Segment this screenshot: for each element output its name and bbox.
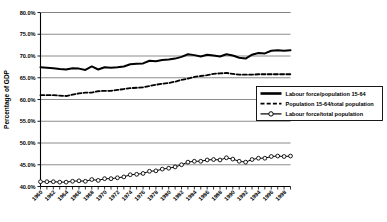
y-tick-label: 80.0% (20, 10, 36, 16)
y-axis-title: Percentage of GDP (3, 69, 11, 129)
y-tick-label: 55.0% (20, 118, 36, 124)
x-tick-label: 1990 (223, 189, 236, 202)
x-tick-label: 1964 (56, 188, 70, 202)
legend: Labour force/population 15-64Population … (257, 87, 383, 121)
legend-label-2: Population 15-64/total population (286, 101, 375, 107)
legend-label-1: Labour force/population 15-64 (286, 91, 367, 97)
x-tick-label: 1988 (210, 189, 223, 202)
y-tick-label: 40.0% (20, 184, 36, 190)
y-tick-label: 50.0% (20, 140, 36, 146)
x-tick-label: 1986 (197, 189, 210, 202)
x-tick-label: 1974 (120, 188, 134, 202)
chart-container: 80.0%75.0%70.0%65.0%60.0%55.0%50.0%45.0%… (0, 0, 387, 222)
x-tick-label: 1980 (159, 189, 172, 202)
x-tick-label: 1976 (133, 189, 146, 202)
x-tick-label: 1996 (261, 189, 274, 202)
y-tick-label: 70.0% (20, 53, 36, 59)
y-tick-label: 75.0% (20, 31, 36, 37)
x-tick-label: 1962 (43, 189, 56, 202)
x-tick-label: 1982 (172, 189, 185, 202)
line-chart: 80.0%75.0%70.0%65.0%60.0%55.0%50.0%45.0%… (0, 0, 387, 222)
x-tick-label: 1978 (146, 189, 159, 202)
x-tick-label: 1968 (82, 189, 95, 202)
x-tick-labels: 1960196219641966196819701972197419761978… (31, 188, 288, 202)
x-tick-label: 1998 (274, 189, 287, 202)
y-tick-label: 60.0% (20, 97, 36, 103)
x-tick-label: 1992 (236, 189, 249, 202)
x-tick-label: 1970 (95, 189, 108, 202)
y-tick-label: 45.0% (20, 162, 36, 168)
x-tick-label: 1966 (69, 189, 82, 202)
x-tick-label: 1972 (108, 189, 121, 202)
x-tick-label: 1994 (249, 188, 263, 202)
y-tick-label: 65.0% (20, 75, 36, 81)
x-tick-label: 1960 (31, 189, 44, 202)
legend-label-3: Labour force/total population (286, 111, 364, 117)
x-tick-label: 1984 (185, 188, 199, 202)
